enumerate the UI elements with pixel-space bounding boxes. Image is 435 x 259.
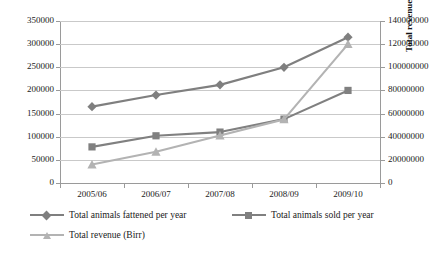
legend-key-icon [232, 210, 266, 220]
data-point-marker [343, 40, 352, 49]
data-point-marker [215, 80, 224, 89]
series-1 [87, 33, 352, 112]
legend-item-2[interactable]: Total animals sold per year [232, 210, 374, 220]
chart-legend: Total animals fattened per yearTotal ani… [0, 208, 435, 258]
legend-key-icon [30, 230, 64, 240]
series-line [92, 37, 348, 106]
data-point-marker [152, 132, 159, 139]
legend-key-icon [30, 210, 64, 220]
legend-item-3[interactable]: Total revenue (Birr) [30, 230, 145, 240]
legend-label: Total animals sold per year [271, 210, 374, 220]
chart-container: 0500001000001500002000002500003000003500… [0, 0, 435, 259]
legend-item-1[interactable]: Total animals fattened per year [30, 210, 187, 220]
data-point-marker [344, 87, 351, 94]
series-line [92, 44, 348, 164]
legend-label: Total revenue (Birr) [69, 230, 145, 240]
data-point-marker [88, 143, 95, 150]
data-point-marker [87, 102, 96, 111]
series-2 [88, 87, 351, 151]
data-point-marker [151, 90, 160, 99]
y-axis-right-title: Total revenue (Birr) [404, 0, 414, 52]
series-3 [87, 40, 352, 169]
data-point-marker [279, 63, 288, 72]
legend-label: Total animals fattened per year [69, 210, 187, 220]
